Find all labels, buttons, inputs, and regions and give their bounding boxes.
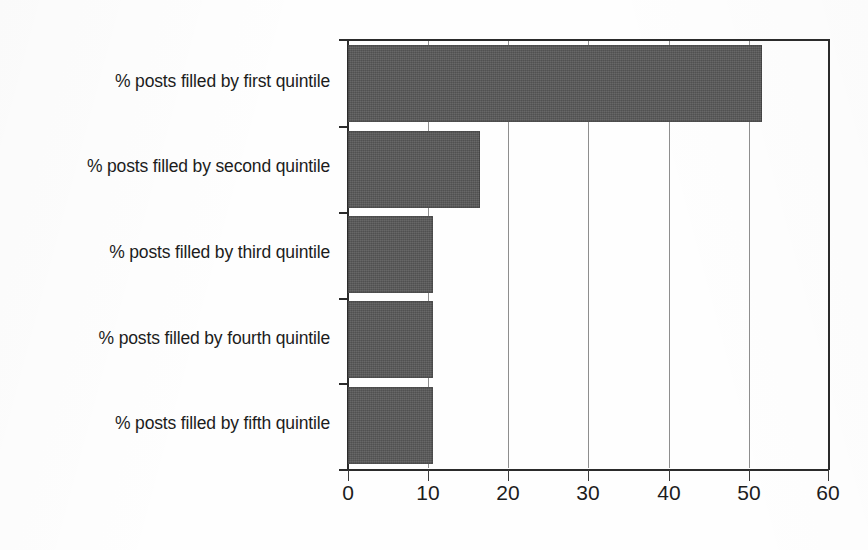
bar-fourth-quintile[interactable] bbox=[348, 301, 433, 378]
category-tick-4 bbox=[339, 298, 349, 300]
axis-line-top bbox=[347, 39, 829, 41]
category-label-fifth-quintile: % posts filled by fifth quintile bbox=[0, 413, 330, 434]
plot-area bbox=[348, 41, 829, 468]
category-label-first-quintile: % posts filled by first quintile bbox=[0, 71, 330, 92]
x-tick-10 bbox=[428, 470, 429, 481]
x-axis-label-10: 10 bbox=[398, 481, 458, 505]
x-tick-60 bbox=[828, 470, 829, 481]
x-axis-label-30: 30 bbox=[558, 481, 618, 505]
x-tick-30 bbox=[588, 470, 589, 481]
category-tick-2 bbox=[339, 126, 349, 128]
x-tick-50 bbox=[749, 470, 750, 481]
x-axis-label-20: 20 bbox=[478, 481, 538, 505]
x-tick-20 bbox=[508, 470, 509, 481]
x-axis-tick-labels: 0 10 20 30 40 50 60 bbox=[348, 481, 829, 521]
x-tick-0 bbox=[348, 470, 349, 481]
axis-line-right bbox=[828, 39, 830, 470]
x-tick-40 bbox=[669, 470, 670, 481]
category-tick-5 bbox=[339, 383, 349, 385]
bar-chart-figure: % posts filled by first quintile % posts… bbox=[0, 0, 868, 550]
bar-third-quintile[interactable] bbox=[348, 216, 433, 293]
category-label-third-quintile: % posts filled by third quintile bbox=[0, 242, 330, 263]
x-axis-label-50: 50 bbox=[719, 481, 779, 505]
bar-first-quintile[interactable] bbox=[348, 45, 762, 122]
x-axis-label-60: 60 bbox=[798, 481, 858, 505]
x-axis-label-0: 0 bbox=[318, 481, 378, 505]
category-tick-1 bbox=[339, 39, 349, 41]
bar-second-quintile[interactable] bbox=[348, 131, 480, 208]
x-axis-label-40: 40 bbox=[639, 481, 699, 505]
category-label-fourth-quintile: % posts filled by fourth quintile bbox=[0, 328, 330, 349]
category-tick-3 bbox=[339, 212, 349, 214]
category-axis-labels: % posts filled by first quintile % posts… bbox=[0, 41, 340, 468]
bar-fifth-quintile[interactable] bbox=[348, 387, 433, 464]
category-label-second-quintile: % posts filled by second quintile bbox=[0, 156, 330, 177]
